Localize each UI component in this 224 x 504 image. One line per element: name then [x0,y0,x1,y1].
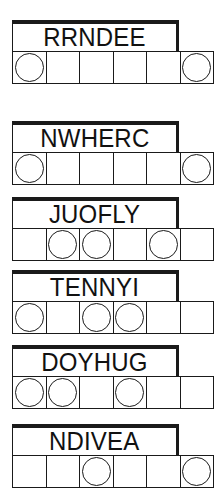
answer-cell[interactable] [181,153,214,184]
answer-grid [12,152,214,185]
puzzle-block: DOYHUG [12,345,214,409]
answer-cell[interactable] [80,153,114,184]
circle-highlight-icon [182,154,211,183]
answer-grid [12,376,214,409]
scrambled-word-box: NWHERC [12,121,179,153]
circle-highlight-icon [48,230,77,259]
puzzle-block: TENNYI [12,270,214,334]
scrambled-word-box: JUOFLY [12,197,179,229]
answer-cell[interactable] [114,153,148,184]
answer-cell[interactable] [147,456,181,487]
answer-cell[interactable] [114,302,148,333]
answer-cell[interactable] [147,229,181,260]
scrambled-word-box: DOYHUG [12,345,179,377]
answer-cell[interactable] [181,52,214,83]
answer-cell[interactable] [147,302,181,333]
scrambled-word-text: TENNYI [50,275,139,301]
answer-cell[interactable] [80,229,114,260]
answer-cell[interactable] [181,456,214,487]
puzzle-sheet: RRNDEENWHERCJUOFLYTENNYIDOYHUGNDIVEA [0,0,224,504]
circle-highlight-icon [182,457,211,486]
scrambled-word-box: RRNDEE [12,20,179,52]
answer-cell[interactable] [13,153,47,184]
answer-cell[interactable] [80,456,114,487]
answer-cell[interactable] [114,229,148,260]
answer-cell[interactable] [114,456,148,487]
answer-cell[interactable] [114,377,148,408]
answer-cell[interactable] [47,377,81,408]
scrambled-word-box: NDIVEA [12,424,179,456]
circle-highlight-icon [15,154,44,183]
puzzle-block: NWHERC [12,121,214,185]
puzzle-block: NDIVEA [12,424,214,488]
scrambled-word-text: NDIVEA [49,429,140,455]
answer-cell[interactable] [47,456,81,487]
answer-cell[interactable] [13,456,47,487]
scrambled-word-text: JUOFLY [49,202,140,228]
answer-grid [12,228,214,261]
answer-cell[interactable] [47,302,81,333]
circle-highlight-icon [15,53,44,82]
circle-highlight-icon [82,303,111,332]
answer-cell[interactable] [47,229,81,260]
circle-highlight-icon [15,378,44,407]
answer-cell[interactable] [147,153,181,184]
answer-cell[interactable] [47,52,81,83]
answer-cell[interactable] [147,377,181,408]
answer-cell[interactable] [147,52,181,83]
circle-highlight-icon [149,230,178,259]
answer-cell[interactable] [13,377,47,408]
scrambled-word-text: RRNDEE [43,25,146,51]
scrambled-word-text: DOYHUG [41,350,148,376]
puzzle-block: RRNDEE [12,20,214,84]
answer-cell[interactable] [181,377,214,408]
scrambled-word-box: TENNYI [12,270,179,302]
circle-highlight-icon [82,230,111,259]
answer-cell[interactable] [13,302,47,333]
circle-highlight-icon [48,378,77,407]
circle-highlight-icon [15,303,44,332]
answer-cell[interactable] [181,229,214,260]
answer-cell[interactable] [114,52,148,83]
circle-highlight-icon [115,378,144,407]
answer-cell[interactable] [80,302,114,333]
circle-highlight-icon [182,53,211,82]
answer-grid [12,51,214,84]
answer-cell[interactable] [181,302,214,333]
answer-cell[interactable] [47,153,81,184]
circle-highlight-icon [115,303,144,332]
scrambled-word-text: NWHERC [40,126,149,152]
circle-highlight-icon [82,457,111,486]
answer-cell[interactable] [80,377,114,408]
answer-cell[interactable] [13,229,47,260]
puzzle-block: JUOFLY [12,197,214,261]
answer-grid [12,301,214,334]
answer-grid [12,455,214,488]
answer-cell[interactable] [13,52,47,83]
answer-cell[interactable] [80,52,114,83]
